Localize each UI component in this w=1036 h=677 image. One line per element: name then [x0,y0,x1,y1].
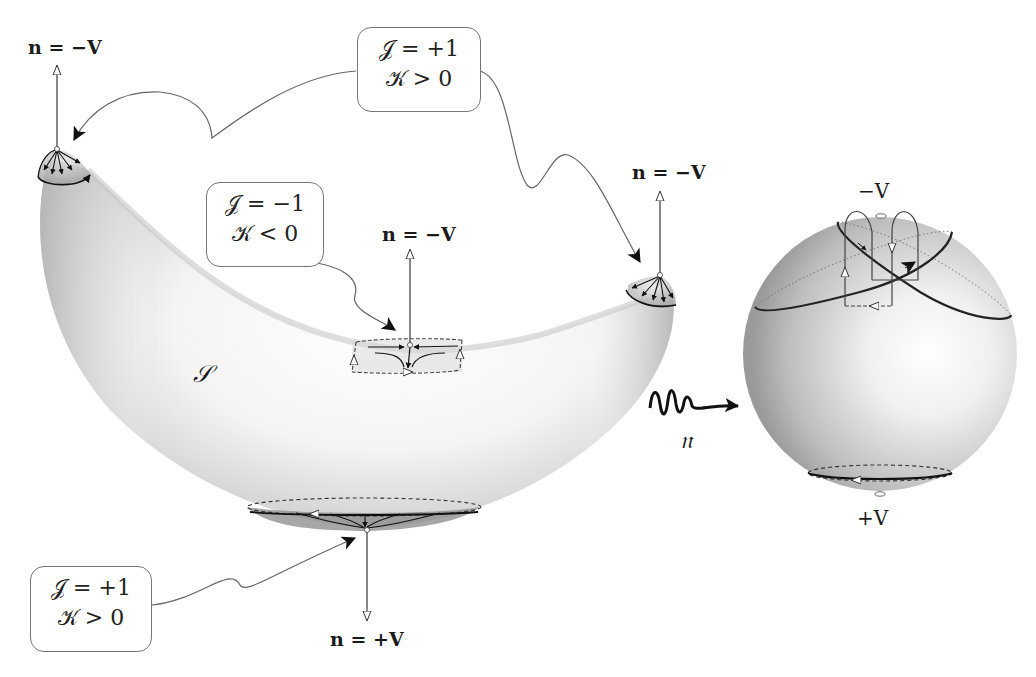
normal-label-bottom: n = +V [330,630,404,649]
callout-index-positive-bottom: 𝒥 = +1 𝒦 > 0 [30,566,152,652]
callout-curvature: 𝒦 > 0 [31,603,151,633]
sphere-south-label: +V [857,508,888,528]
normal-label-left-tip: n = −V [28,38,102,57]
sphere-north-label: −V [858,181,889,201]
normal-label-right-tip: n = −V [632,163,706,182]
callout-curvature: 𝒦 < 0 [207,219,323,249]
left-tip-critical-point [38,66,90,185]
callout-index: 𝒥 = −1 [207,189,323,219]
callout-index: 𝒥 = +1 [31,573,151,603]
gauss-map-label: 𝔫 [680,428,692,452]
bottom-critical-point [247,498,481,620]
saddle-critical-point [352,250,462,373]
surface-label: 𝒮 [193,362,212,386]
callout-curvature: 𝒦 > 0 [358,64,480,94]
gauss-map-diagram [0,0,1036,677]
gauss-map-arrow [650,391,738,414]
callout-index-negative: 𝒥 = −1 𝒦 < 0 [206,182,324,267]
normal-label-saddle: n = −V [382,225,456,244]
unit-sphere [743,211,1017,496]
callout-index-positive-top: 𝒥 = +1 𝒦 > 0 [357,27,481,112]
callout-index: 𝒥 = +1 [358,34,480,64]
